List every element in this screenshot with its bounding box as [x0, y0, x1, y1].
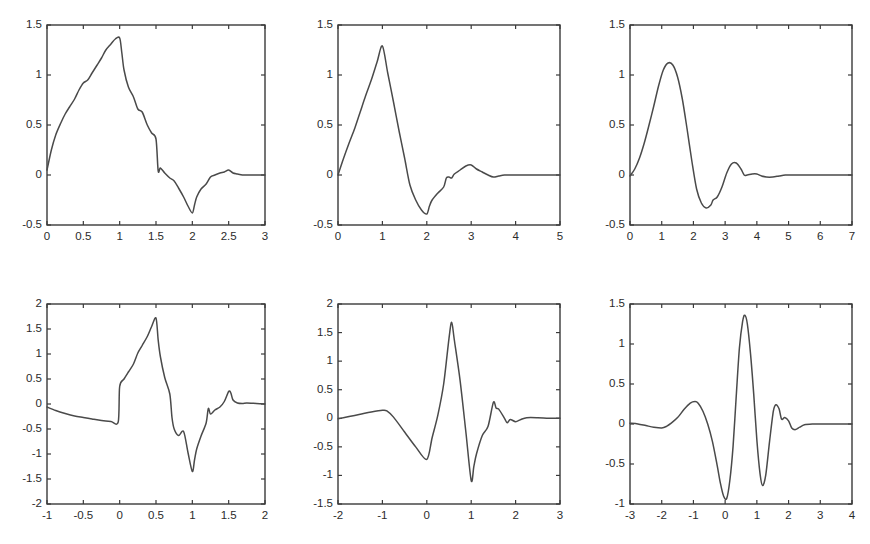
x-tick-label: 0 [116, 509, 122, 521]
y-tick-label: 0.5 [26, 372, 42, 384]
x-tick-label: 2.5 [221, 230, 237, 242]
y-tick-label: -1 [615, 497, 625, 509]
y-tick-label: 1 [327, 354, 333, 366]
plot-frame [630, 25, 852, 225]
subplot-db3-wavelet-function: -2-10123-1.5-1-0.500.511.52 [298, 290, 576, 524]
x-tick-label: 0.5 [75, 230, 91, 242]
y-tick-label: -0.5 [605, 457, 625, 469]
x-tick-label: 1 [468, 509, 474, 521]
y-tick-label: 1 [619, 68, 625, 80]
x-tick-label: -2 [657, 509, 667, 521]
x-tick-label: 2 [690, 230, 696, 242]
y-tick-label: -0.5 [22, 422, 42, 434]
y-tick-label: 0.5 [317, 383, 333, 395]
x-tick-label: 1 [754, 509, 760, 521]
subplot-db2-scaling-function: 00.511.522.53-0.500.511.5 [7, 11, 281, 245]
y-tick-label: 1 [619, 337, 625, 349]
y-tick-label: 2 [36, 297, 42, 309]
y-tick-label: 0.5 [317, 118, 333, 130]
y-tick-label: 0.5 [26, 118, 42, 130]
y-tick-label: 0.5 [609, 377, 625, 389]
y-tick-label: 1 [36, 347, 42, 359]
y-tick-label: 0 [36, 168, 42, 180]
x-tick-label: 0.5 [148, 509, 164, 521]
data-curve-phi [47, 37, 265, 213]
y-tick-label: -1 [323, 468, 333, 480]
y-tick-label: 1 [36, 68, 42, 80]
x-tick-label: 0 [335, 230, 341, 242]
y-tick-label: 1 [327, 68, 333, 80]
subplot-db4-wavelet-function: -3-2-101234-1-0.500.511.5 [590, 290, 868, 524]
plot-frame [47, 304, 265, 504]
y-tick-label: 0 [327, 411, 333, 423]
x-tick-label: 6 [817, 230, 823, 242]
y-tick-label: 1.5 [317, 18, 333, 30]
x-tick-label: 2 [189, 230, 195, 242]
plot-frame [338, 25, 560, 225]
y-tick-label: 1.5 [26, 322, 42, 334]
x-tick-label: 1.5 [221, 509, 237, 521]
y-tick-label: -0.5 [313, 218, 333, 230]
data-curve-phi [338, 46, 560, 214]
x-tick-label: -0.5 [73, 509, 93, 521]
x-tick-label: -1 [688, 509, 698, 521]
x-tick-label: 2 [512, 509, 518, 521]
x-tick-label: -1 [42, 509, 52, 521]
wavelet-figure: 00.511.522.53-0.500.511.5012345-0.500.51… [0, 0, 870, 544]
y-tick-label: -1.5 [313, 497, 333, 509]
x-tick-label: 1 [659, 230, 665, 242]
x-tick-label: -2 [333, 509, 343, 521]
y-tick-label: 1.5 [26, 18, 42, 30]
y-tick-label: -0.5 [313, 440, 333, 452]
x-tick-label: 1 [379, 230, 385, 242]
x-tick-label: 3 [557, 509, 563, 521]
x-tick-label: -3 [625, 509, 635, 521]
x-tick-label: 0 [627, 230, 633, 242]
subplot-db4-scaling-function: 01234567-0.500.511.5 [590, 11, 868, 245]
y-tick-label: 1.5 [317, 326, 333, 338]
x-tick-label: 0 [722, 509, 728, 521]
x-tick-label: 3 [262, 230, 268, 242]
y-tick-label: 0 [619, 417, 625, 429]
x-tick-label: 4 [849, 509, 856, 521]
x-tick-label: 7 [849, 230, 855, 242]
y-tick-label: -1.5 [22, 472, 42, 484]
data-curve-phi [630, 63, 852, 208]
x-tick-label: 4 [754, 230, 761, 242]
x-tick-label: 2 [424, 230, 430, 242]
y-tick-label: -1 [32, 447, 42, 459]
subplot-db3-scaling-function: 012345-0.500.511.5 [298, 11, 576, 245]
x-tick-label: 5 [557, 230, 563, 242]
y-tick-label: 0.5 [609, 118, 625, 130]
y-tick-label: 0 [36, 397, 42, 409]
data-curve-psi [47, 318, 265, 472]
y-tick-label: 0 [327, 168, 333, 180]
data-curve-psi [338, 322, 560, 481]
y-tick-label: -0.5 [605, 218, 625, 230]
data-curve-psi [630, 315, 852, 499]
y-tick-label: 2 [327, 297, 333, 309]
x-tick-label: 0 [44, 230, 50, 242]
x-tick-label: 3 [468, 230, 474, 242]
subplot-db2-wavelet-function: -1-0.500.511.52-2-1.5-1-0.500.511.52 [7, 290, 281, 524]
x-tick-label: 3 [817, 509, 823, 521]
y-tick-label: 1.5 [609, 297, 625, 309]
y-tick-label: 0 [619, 168, 625, 180]
x-tick-label: 5 [785, 230, 791, 242]
x-tick-label: 2 [785, 509, 791, 521]
x-tick-label: -1 [377, 509, 387, 521]
x-tick-label: 3 [722, 230, 728, 242]
x-tick-label: 1.5 [148, 230, 164, 242]
x-tick-label: 1 [116, 230, 122, 242]
y-tick-label: -2 [32, 497, 42, 509]
x-tick-label: 4 [512, 230, 519, 242]
x-tick-label: 0 [424, 509, 430, 521]
x-tick-label: 1 [189, 509, 195, 521]
y-tick-label: -0.5 [22, 218, 42, 230]
plot-frame [47, 25, 265, 225]
y-tick-label: 1.5 [609, 18, 625, 30]
x-tick-label: 2 [262, 509, 268, 521]
